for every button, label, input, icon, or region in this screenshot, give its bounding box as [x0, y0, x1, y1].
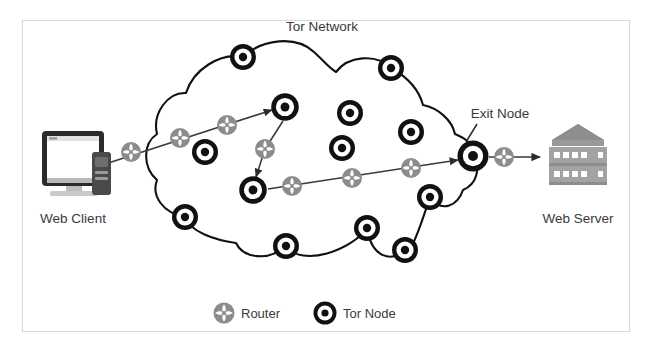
legend-router-label: Router	[241, 306, 281, 321]
tor-node[interactable]	[354, 215, 380, 241]
tor-node[interactable]	[337, 100, 363, 126]
router-icon[interactable]	[255, 139, 275, 159]
diagram-canvas: Tor Network Exit Node Web Client Web Ser…	[0, 0, 652, 351]
tor-node[interactable]	[329, 135, 355, 161]
router-icon[interactable]	[170, 128, 190, 148]
router-icon[interactable]	[282, 176, 302, 196]
web-client-icon[interactable]	[42, 131, 111, 196]
tor-node[interactable]	[172, 204, 198, 230]
tor-node[interactable]	[417, 184, 443, 210]
router-icon[interactable]	[494, 147, 514, 167]
tor-network-label: Tor Network	[286, 19, 358, 34]
web-server-label: Web Server	[542, 211, 614, 226]
web-client-label: Web Client	[40, 211, 106, 226]
router-icon[interactable]	[121, 142, 141, 162]
legend: Router Tor Node	[214, 302, 396, 325]
router-icon[interactable]	[217, 115, 237, 135]
legend-tor-node-icon	[314, 302, 337, 325]
tor-node[interactable]	[273, 233, 299, 259]
tor-node[interactable]	[271, 93, 299, 121]
exit-node[interactable]	[458, 141, 489, 172]
tor-node[interactable]	[398, 119, 424, 145]
tor-node[interactable]	[239, 176, 267, 204]
exit-node-label: Exit Node	[471, 106, 530, 121]
legend-tor-node-label: Tor Node	[343, 306, 396, 321]
exit-node-leader-line	[466, 124, 477, 142]
tor-node[interactable]	[230, 44, 256, 70]
legend-router-icon	[214, 303, 235, 324]
router-icon[interactable]	[342, 168, 362, 188]
router-icon[interactable]	[401, 158, 421, 178]
tor-node[interactable]	[192, 139, 218, 165]
tor-node[interactable]	[378, 55, 404, 81]
web-server-icon[interactable]	[549, 124, 607, 185]
tor-network-diagram: Tor Network Exit Node Web Client Web Ser…	[0, 0, 652, 351]
tor-node[interactable]	[392, 237, 418, 263]
